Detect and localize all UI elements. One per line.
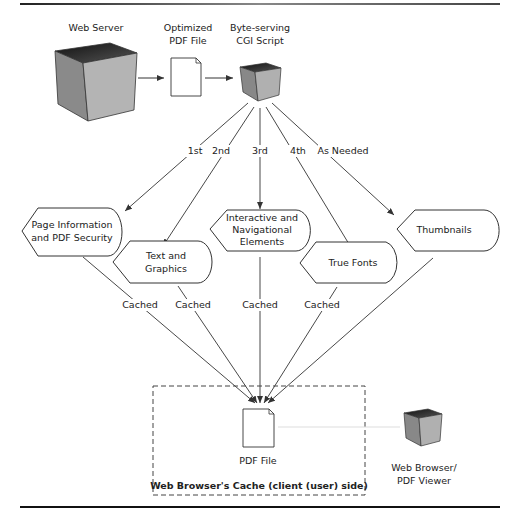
optimized-pdf-file-icon bbox=[171, 58, 201, 96]
order-label-2nd: 2nd bbox=[212, 145, 230, 156]
svg-text:Elements: Elements bbox=[240, 236, 284, 247]
cached-label-4: Cached bbox=[304, 299, 340, 310]
content-node-interactive: Interactive and Navigational Elements bbox=[210, 210, 310, 251]
order-label-3rd: 3rd bbox=[252, 145, 268, 156]
content-node-text-graphics: Text and Graphics bbox=[113, 241, 212, 283]
cached-pdf-file-icon bbox=[243, 409, 274, 447]
pdf-byte-serving-diagram: Web Server Optimized PDF File Byte-servi… bbox=[0, 0, 521, 522]
cgi-script-cube-icon bbox=[240, 63, 281, 101]
cgi-script-label-1: Byte-serving bbox=[230, 22, 290, 33]
cached-label-1: Cached bbox=[122, 299, 158, 310]
svg-text:Thumbnails: Thumbnails bbox=[415, 224, 471, 235]
web-server-label: Web Server bbox=[69, 22, 124, 33]
optimized-pdf-label-2: PDF File bbox=[169, 35, 207, 46]
order-label-as-needed: As Needed bbox=[317, 145, 368, 156]
svg-text:True Fonts: True Fonts bbox=[328, 257, 378, 268]
web-server-cube-icon bbox=[55, 43, 137, 121]
content-node-page-info: Page Information and PDF Security bbox=[22, 208, 122, 256]
optimized-pdf-label-1: Optimized bbox=[164, 22, 213, 33]
svg-text:Page Information: Page Information bbox=[31, 219, 112, 230]
order-label-1st: 1st bbox=[188, 145, 203, 156]
viewer-label-2: PDF Viewer bbox=[397, 475, 451, 486]
svg-text:Text and: Text and bbox=[145, 250, 186, 261]
web-browser-cube-icon bbox=[404, 409, 442, 446]
svg-text:and PDF Security: and PDF Security bbox=[31, 232, 113, 243]
svg-text:Navigational: Navigational bbox=[232, 224, 292, 235]
cgi-script-label-2: CGI Script bbox=[236, 35, 284, 46]
svg-text:Graphics: Graphics bbox=[145, 263, 187, 274]
top-rule bbox=[20, 3, 500, 5]
viewer-label-1: Web Browser/ bbox=[391, 462, 457, 473]
svg-text:Interactive and: Interactive and bbox=[226, 212, 298, 223]
bottom-rule bbox=[20, 506, 500, 508]
content-node-true-fonts: True Fonts bbox=[300, 242, 397, 283]
cached-pdf-label: PDF File bbox=[239, 455, 277, 466]
cached-label-2: Cached bbox=[175, 299, 211, 310]
content-node-thumbnails: Thumbnails bbox=[397, 210, 499, 251]
order-label-4th: 4th bbox=[290, 145, 306, 156]
browser-cache-title: Web Browser's Cache (client (user) side) bbox=[150, 480, 368, 491]
cached-label-3: Cached bbox=[242, 299, 278, 310]
